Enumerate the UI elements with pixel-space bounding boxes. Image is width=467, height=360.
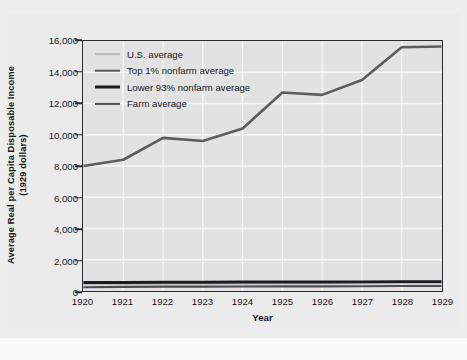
y-axis-tick-mark <box>75 102 82 104</box>
x-axis-tick-label: 1922 <box>143 296 183 307</box>
y-axis-tick-mark <box>75 291 82 293</box>
chart-legend: U.S. averageTop 1% nonfarm averageLower … <box>95 46 325 112</box>
x-axis-tick-label: 1928 <box>383 296 423 307</box>
y-axis-title-line1: Average Real per Capita Disposable Incom… <box>6 66 16 264</box>
y-axis-tick-mark <box>75 165 82 167</box>
legend-item-label: U.S. average <box>127 49 183 60</box>
y-axis-tick-label: 4,000 <box>34 224 78 235</box>
x-axis-title: Year <box>82 312 443 323</box>
x-axis-tick-label: 1921 <box>103 296 143 307</box>
x-axis-tick-label: 1923 <box>183 296 223 307</box>
legend-line-icon <box>95 49 120 59</box>
x-axis-tick-label: 1929 <box>423 296 463 307</box>
x-axis-tick-labels: 1920192119221923192419251926192719281929 <box>82 296 443 310</box>
chart-figure: Average Real per Capita Disposable Incom… <box>0 0 467 338</box>
legend-line-icon <box>95 66 120 76</box>
legend-item-label: Lower 93% nonfarm average <box>127 82 250 93</box>
legend-line-icon <box>95 99 120 109</box>
y-axis-tick-label: 8,000 <box>34 161 78 172</box>
legend-item[interactable]: Farm average <box>95 96 325 113</box>
x-axis-tick-label: 1924 <box>223 296 263 307</box>
y-axis-tick-label: 14,000 <box>34 66 78 77</box>
y-axis-tick-mark <box>75 134 82 136</box>
y-axis-tick-mark <box>75 39 82 41</box>
y-axis-tick-label: 6,000 <box>34 192 78 203</box>
y-axis-title: Average Real per Capita Disposable Incom… <box>0 40 34 290</box>
y-axis-tick-label: 16,000 <box>34 35 78 46</box>
y-axis-tick-mark <box>75 260 82 262</box>
x-axis-tick-label: 1925 <box>263 296 303 307</box>
x-axis-tick-label: 1920 <box>63 296 103 307</box>
legend-item[interactable]: U.S. average <box>95 46 325 63</box>
y-axis-tick-marks <box>74 40 82 292</box>
x-axis-tick-label: 1927 <box>343 296 383 307</box>
legend-line-icon <box>95 82 120 92</box>
legend-item[interactable]: Top 1% nonfarm average <box>95 63 325 80</box>
bottom-caption-strip <box>0 338 467 360</box>
y-axis-tick-mark <box>75 71 82 73</box>
legend-item[interactable]: Lower 93% nonfarm average <box>95 79 325 96</box>
y-axis-tick-label: 12,000 <box>34 98 78 109</box>
y-axis-tick-labels: 02,0004,0006,0008,00010,00012,00014,0001… <box>30 40 78 292</box>
x-axis-tick-label: 1926 <box>303 296 343 307</box>
y-axis-tick-mark <box>75 228 82 230</box>
y-axis-tick-label: 2,000 <box>34 255 78 266</box>
y-axis-title-line2: (1929 dollars) <box>17 134 27 195</box>
legend-item-label: Farm average <box>127 98 187 109</box>
y-axis-tick-mark <box>75 197 82 199</box>
y-axis-tick-label: 10,000 <box>34 129 78 140</box>
legend-item-label: Top 1% nonfarm average <box>127 65 234 76</box>
